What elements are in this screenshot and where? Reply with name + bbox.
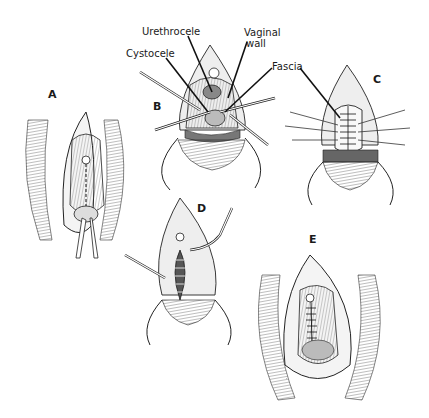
panel-label-a: A	[48, 88, 57, 101]
panel-label-d: D	[197, 202, 206, 215]
panel-label-b: B	[153, 100, 161, 113]
panel-label-e: E	[309, 233, 317, 246]
illustration-drawings	[0, 0, 429, 418]
label-fascia: Fascia	[272, 61, 303, 72]
label-vaginal-wall-line2: wall	[246, 38, 266, 49]
panel-label-c: C	[373, 73, 381, 86]
label-urethrocele: Urethrocele	[142, 26, 200, 37]
label-cystocele: Cystocele	[126, 48, 175, 59]
panel-d-drawing	[125, 198, 232, 345]
panel-c-drawing	[285, 65, 410, 205]
panel-b-drawing	[140, 45, 275, 190]
panel-e-drawing	[258, 255, 380, 400]
panel-a-drawing	[26, 112, 124, 258]
anterior-colporrhaphy-figure: Urethrocele Vaginal wall Cystocele Fasci…	[0, 0, 429, 418]
label-vaginal-wall-line1: Vaginal	[244, 27, 281, 38]
